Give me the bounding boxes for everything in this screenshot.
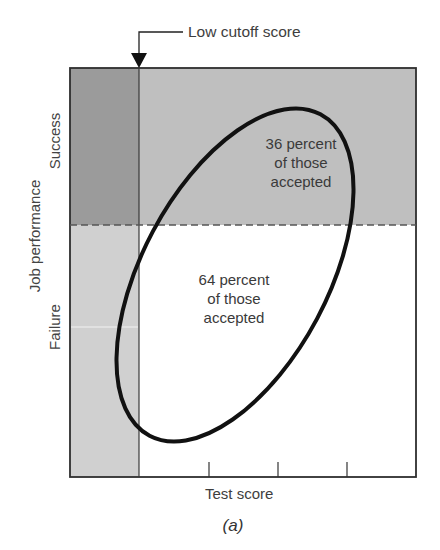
upper-text-line: 36 percent bbox=[266, 134, 337, 153]
region-rejected-failure bbox=[70, 225, 139, 477]
lower-text-line: 64 percent bbox=[199, 270, 270, 289]
lower-text-line: of those bbox=[199, 289, 270, 308]
y-upper-label: Success bbox=[46, 113, 63, 170]
lower-text-line: accepted bbox=[199, 308, 270, 327]
upper-text-line: of those bbox=[266, 153, 337, 172]
y-lower-label: Failure bbox=[46, 304, 63, 350]
upper-region-text: 36 percent of those accepted bbox=[266, 134, 337, 191]
arrow-down-icon bbox=[131, 53, 147, 68]
figure-caption: (a) bbox=[223, 516, 244, 536]
callout-line bbox=[139, 32, 183, 55]
callout-label: Low cutoff score bbox=[188, 23, 301, 41]
upper-text-line: accepted bbox=[266, 172, 337, 191]
region-rejected-success bbox=[70, 68, 139, 225]
x-axis-label: Test score bbox=[205, 485, 273, 502]
lower-region-text: 64 percent of those accepted bbox=[199, 270, 270, 327]
y-axis-label: Job performance bbox=[26, 180, 43, 293]
